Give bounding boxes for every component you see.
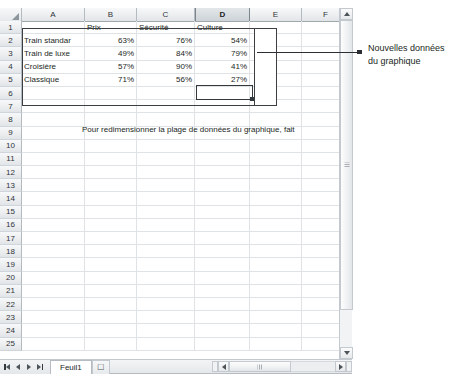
cell-a5[interactable]: Classique <box>22 74 85 87</box>
cell-c3[interactable]: 84% <box>137 47 195 60</box>
row-header-20[interactable]: 20 <box>0 272 22 285</box>
cell-e24[interactable] <box>250 324 302 337</box>
row-header-1[interactable]: 1 <box>0 21 22 34</box>
cell-d11[interactable] <box>195 153 250 166</box>
vertical-scrollbar[interactable] <box>339 8 352 359</box>
cell-b17[interactable] <box>85 232 137 245</box>
cell-a24[interactable] <box>22 324 85 337</box>
row-header-19[interactable]: 19 <box>0 258 22 271</box>
cell-d3[interactable]: 79% <box>195 47 250 60</box>
cell-b14[interactable] <box>85 192 137 205</box>
row-header-18[interactable]: 18 <box>0 245 22 258</box>
row-header-3[interactable]: 3 <box>0 47 22 60</box>
cell-b24[interactable] <box>85 324 137 337</box>
cell-e12[interactable] <box>250 166 302 179</box>
scroll-up-button[interactable] <box>340 8 353 20</box>
row-header-12[interactable]: 12 <box>0 166 22 179</box>
cell-a6[interactable] <box>22 87 85 100</box>
table-row[interactable]: 18 <box>0 245 352 258</box>
cell-a25[interactable] <box>22 338 85 351</box>
row-header-15[interactable]: 15 <box>0 206 22 219</box>
cell-a15[interactable] <box>22 206 85 219</box>
row-header-8[interactable]: 8 <box>0 113 22 126</box>
cell-c1[interactable]: Sécurité <box>137 21 195 34</box>
cell-b7[interactable] <box>85 100 137 113</box>
cell-a19[interactable] <box>22 258 85 271</box>
row-header-14[interactable]: 14 <box>0 192 22 205</box>
cell-a18[interactable] <box>22 245 85 258</box>
cell-d15[interactable] <box>195 206 250 219</box>
table-row[interactable]: 22 <box>0 298 352 311</box>
cell-b5[interactable]: 71% <box>85 74 137 87</box>
table-row[interactable]: 15 <box>0 206 352 219</box>
cell-c10[interactable] <box>137 140 195 153</box>
table-row[interactable]: 19 <box>0 258 352 271</box>
cell-e1[interactable] <box>250 21 302 34</box>
cell-c20[interactable] <box>137 272 195 285</box>
row-header-10[interactable]: 10 <box>0 140 22 153</box>
cell-d24[interactable] <box>195 324 250 337</box>
cell-d2[interactable]: 54% <box>195 34 250 47</box>
cell-c2[interactable]: 76% <box>137 34 195 47</box>
vertical-scrollbar-thumb[interactable] <box>340 20 353 310</box>
cell-b15[interactable] <box>85 206 137 219</box>
scroll-down-button[interactable] <box>340 347 353 359</box>
nav-last-sheet-button[interactable] <box>35 362 45 373</box>
cell-e20[interactable] <box>250 272 302 285</box>
cell-d1[interactable]: Culture <box>195 21 250 34</box>
cell-a23[interactable] <box>22 311 85 324</box>
table-row[interactable]: 11 <box>0 153 352 166</box>
sheet-tab-feuil1[interactable]: Feuil1 <box>50 360 92 374</box>
table-row[interactable]: 23 <box>0 311 352 324</box>
cell-e21[interactable] <box>250 285 302 298</box>
cell-d20[interactable] <box>195 272 250 285</box>
cell-a7[interactable] <box>22 100 85 113</box>
cell-d7[interactable] <box>195 100 250 113</box>
cell-d5[interactable]: 27% <box>195 74 250 87</box>
column-header-d[interactable]: D <box>195 8 250 21</box>
cell-e16[interactable] <box>250 219 302 232</box>
cell-e6[interactable] <box>250 87 302 100</box>
cell-d13[interactable] <box>195 179 250 192</box>
cell-d16[interactable] <box>195 219 250 232</box>
cell-b12[interactable] <box>85 166 137 179</box>
table-row[interactable]: 1 Prix Sécurité Culture <box>0 21 352 34</box>
cell-b3[interactable]: 49% <box>85 47 137 60</box>
column-header-b[interactable]: B <box>85 8 137 21</box>
row-header-23[interactable]: 23 <box>0 311 22 324</box>
table-row[interactable]: 5 Classique 71% 56% 27% <box>0 74 352 87</box>
cell-e4[interactable] <box>250 61 302 74</box>
row-header-24[interactable]: 24 <box>0 324 22 337</box>
table-row[interactable]: 17 <box>0 232 352 245</box>
column-header-a[interactable]: A <box>22 8 85 21</box>
cell-b13[interactable] <box>85 179 137 192</box>
cell-c16[interactable] <box>137 219 195 232</box>
cell-c19[interactable] <box>137 258 195 271</box>
horizontal-scrollbar-track[interactable] <box>291 361 335 372</box>
cell-e11[interactable] <box>250 153 302 166</box>
row-header-7[interactable]: 7 <box>0 100 22 113</box>
horizontal-scrollbar-thumb[interactable] <box>229 361 291 372</box>
cell-b20[interactable] <box>85 272 137 285</box>
new-sheet-button[interactable]: ☐ <box>92 360 110 374</box>
cell-d14[interactable] <box>195 192 250 205</box>
cell-b10[interactable] <box>85 140 137 153</box>
cell-e13[interactable] <box>250 179 302 192</box>
cell-c15[interactable] <box>137 206 195 219</box>
cell-b6[interactable] <box>85 87 137 100</box>
cell-d10[interactable] <box>195 140 250 153</box>
table-row[interactable]: 16 <box>0 219 352 232</box>
cell-a8[interactable] <box>22 113 85 126</box>
cell-d4[interactable]: 41% <box>195 61 250 74</box>
cell-c22[interactable] <box>137 298 195 311</box>
cell-e25[interactable] <box>250 338 302 351</box>
table-row[interactable]: 13 <box>0 179 352 192</box>
horizontal-split-handle[interactable] <box>346 361 352 372</box>
cell-c24[interactable] <box>137 324 195 337</box>
cell-a22[interactable] <box>22 298 85 311</box>
cell-e23[interactable] <box>250 311 302 324</box>
cell-c13[interactable] <box>137 179 195 192</box>
cell-b25[interactable] <box>85 338 137 351</box>
cell-d18[interactable] <box>195 245 250 258</box>
cell-b1[interactable]: Prix <box>85 21 137 34</box>
